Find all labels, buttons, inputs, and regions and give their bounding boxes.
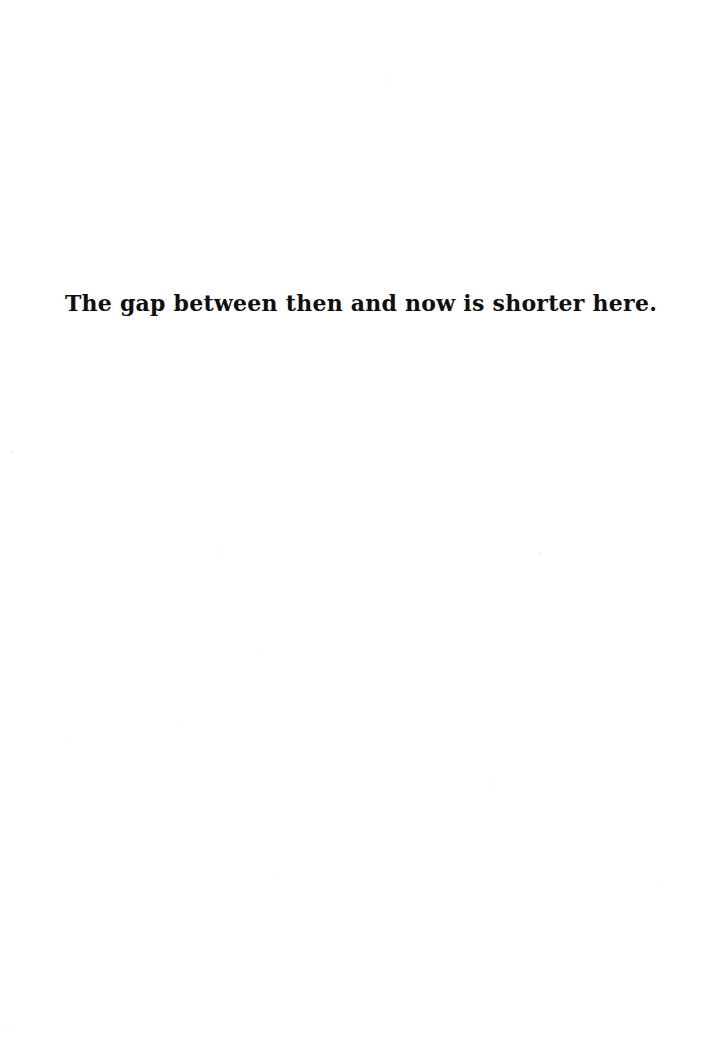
epigraph-block: The gap between then and now is shorter … [0, 266, 722, 340]
paper-speckle-texture [0, 0, 722, 1046]
scanned-page: The gap between then and now is shorter … [0, 0, 722, 1046]
epigraph-text: The gap between then and now is shorter … [65, 288, 657, 318]
